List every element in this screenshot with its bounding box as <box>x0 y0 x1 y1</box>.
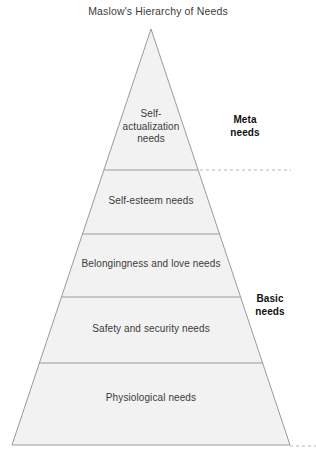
maslow-hierarchy-figure: Maslow's Hierarchy of Needs Self- actual… <box>0 0 316 465</box>
tier-label-belongingness: Belongingness and love needs <box>51 258 251 271</box>
tier-label-self-esteem: Self-esteem needs <box>81 195 221 208</box>
tier-label-safety: Safety and security needs <box>51 323 251 336</box>
pyramid-outline <box>12 29 290 445</box>
tier-label-physiological: Physiological needs <box>51 392 251 405</box>
side-label-meta-needs: Meta needs <box>205 114 285 139</box>
side-label-basic-needs: Basic needs <box>235 293 305 318</box>
tier-label-self-actualization: Self- actualization needs <box>91 108 211 146</box>
